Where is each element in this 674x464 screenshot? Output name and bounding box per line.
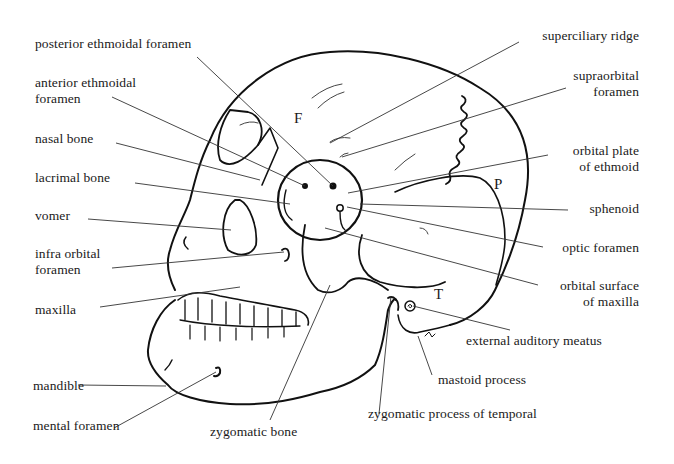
frontal-bone-letter: F xyxy=(294,110,302,127)
cranium-outline xyxy=(210,51,528,325)
parietal-bone-letter: P xyxy=(494,176,502,193)
label-mandible: mandible xyxy=(33,378,84,394)
forehead-outline xyxy=(168,140,210,290)
label-superciliary-ridge: superciliary ridge xyxy=(542,28,639,44)
nasal-cavity xyxy=(223,200,256,255)
label-supraorbital-foramen: supraorbitalforamen xyxy=(573,68,639,100)
label-nasal-bone: nasal bone xyxy=(35,131,93,147)
label-anterior-ethmoidal-foramen: anterior ethmoidalforamen xyxy=(35,75,136,107)
label-infra-orbital-foramen: infra orbitalforamen xyxy=(35,246,100,278)
orbit xyxy=(278,160,362,240)
label-zygomatic-bone: zygomatic bone xyxy=(210,424,297,440)
label-maxilla: maxilla xyxy=(35,302,76,318)
label-optic-foramen: optic foramen xyxy=(562,240,639,256)
label-posterior-ethmoidal-foramen: posterior ethmoidal foramen xyxy=(35,36,191,52)
leader-lines xyxy=(78,42,568,428)
skull-diagram: F P T posterior ethmoidal foramen anteri… xyxy=(0,0,674,464)
label-lacrimal-bone: lacrimal bone xyxy=(35,170,110,186)
label-external-auditory-meatus: external auditory meatus xyxy=(466,333,602,349)
label-orbital-plate-of-ethmoid: orbital plateof ethmoid xyxy=(573,143,639,175)
label-mental-foramen: mental foramen xyxy=(33,418,120,434)
label-sphenoid: sphenoid xyxy=(589,201,639,217)
label-orbital-surface-of-maxilla: orbital surfaceof maxilla xyxy=(560,278,639,310)
label-mastoid-process: mastoid process xyxy=(438,372,526,388)
zygomatic-outline xyxy=(303,225,388,292)
label-vomer: vomer xyxy=(35,208,70,224)
label-zygomatic-process-of-temporal: zygomatic process of temporal xyxy=(368,406,537,422)
temporal-bone-letter: T xyxy=(434,286,443,303)
mastoid-outline xyxy=(398,315,450,333)
squamosal-suture xyxy=(395,176,505,285)
